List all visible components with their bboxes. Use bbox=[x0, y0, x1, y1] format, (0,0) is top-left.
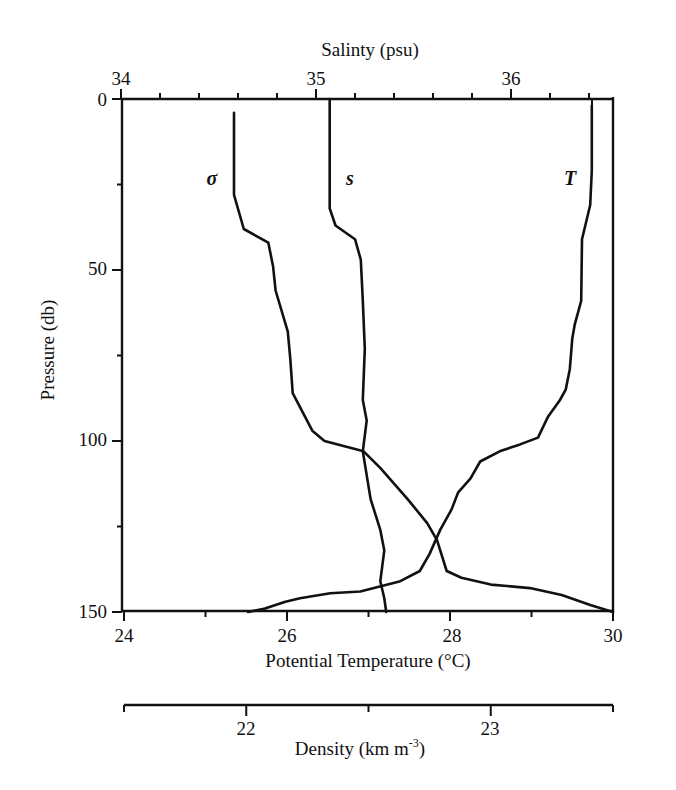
plot-frame bbox=[122, 97, 613, 612]
sigma-density-curve bbox=[234, 113, 613, 612]
density-axis: 22 23 Density (km m-3) bbox=[124, 705, 613, 760]
density-title-sup: -3 bbox=[409, 736, 419, 750]
ocean-profile-chart: 34 35 36 Salinty (psu) 0 50 100 150 Pres… bbox=[0, 0, 676, 790]
temperature-ticks bbox=[124, 611, 613, 621]
salinity-axis-title: Salinty (psu) bbox=[321, 39, 419, 61]
pres-tick-0: 0 bbox=[98, 89, 108, 110]
dens-tick-22: 22 bbox=[237, 718, 256, 739]
temperature-tick-labels: 24 26 28 30 bbox=[115, 625, 623, 646]
pressure-ticks bbox=[112, 99, 122, 612]
density-ticks bbox=[124, 705, 613, 716]
pres-tick-150: 150 bbox=[79, 601, 108, 622]
temperature-axis-title: Potential Temperature (°C) bbox=[265, 650, 470, 672]
temp-tick-24: 24 bbox=[115, 625, 135, 646]
sigma-curve-label: σ bbox=[207, 167, 219, 189]
T-curve-label: T bbox=[564, 167, 577, 189]
density-axis-title: Density (km m-3) bbox=[295, 736, 425, 760]
pressure-axis-title: Pressure (db) bbox=[37, 300, 59, 401]
density-title-main: Density (km m bbox=[295, 738, 409, 760]
sal-tick-35: 35 bbox=[307, 68, 326, 89]
sal-tick-34: 34 bbox=[112, 68, 132, 89]
dens-tick-23: 23 bbox=[481, 718, 500, 739]
temp-tick-30: 30 bbox=[604, 625, 623, 646]
salinity-curve bbox=[330, 99, 387, 612]
salinity-tick-labels: 34 35 36 bbox=[112, 68, 521, 89]
temperature-curve bbox=[248, 106, 592, 612]
temp-tick-28: 28 bbox=[443, 625, 462, 646]
pres-tick-100: 100 bbox=[79, 429, 108, 450]
pres-tick-50: 50 bbox=[88, 258, 107, 279]
sal-tick-36: 36 bbox=[502, 68, 521, 89]
temp-tick-26: 26 bbox=[278, 625, 297, 646]
density-title-end: ) bbox=[419, 738, 425, 760]
s-curve-label: s bbox=[345, 167, 354, 189]
pressure-tick-labels: 0 50 100 150 bbox=[79, 89, 108, 622]
